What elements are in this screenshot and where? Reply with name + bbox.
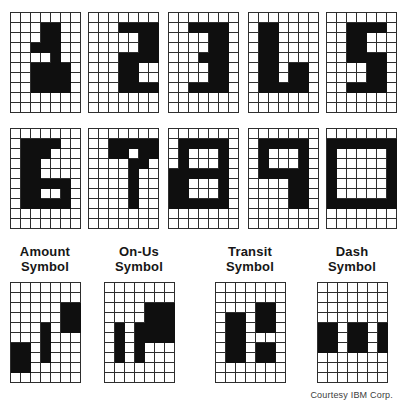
filled-cell — [259, 169, 269, 179]
filled-cell — [299, 149, 309, 159]
empty-cell — [115, 313, 125, 323]
empty-cell — [246, 293, 256, 303]
empty-cell — [109, 23, 119, 33]
filled-cell — [149, 43, 159, 53]
empty-cell — [61, 373, 71, 383]
empty-cell — [236, 363, 246, 373]
empty-cell — [71, 219, 81, 229]
empty-cell — [119, 199, 129, 209]
empty-cell — [309, 33, 319, 43]
empty-cell — [269, 219, 279, 229]
filled-cell — [199, 139, 209, 149]
filled-cell — [11, 343, 21, 353]
filled-cell — [119, 63, 129, 73]
empty-cell — [135, 283, 145, 293]
empty-cell — [169, 149, 179, 159]
filled-cell — [179, 199, 189, 209]
empty-cell — [189, 129, 199, 139]
filled-cell — [179, 189, 189, 199]
empty-cell — [279, 219, 289, 229]
empty-cell — [129, 219, 139, 229]
empty-cell — [139, 13, 149, 23]
filled-cell — [209, 63, 219, 73]
empty-cell — [378, 293, 388, 303]
filled-cell — [289, 179, 299, 189]
filled-cell — [318, 333, 328, 343]
empty-cell — [89, 139, 99, 149]
empty-cell — [216, 353, 226, 363]
empty-cell — [377, 93, 387, 103]
empty-cell — [367, 159, 377, 169]
empty-cell — [337, 169, 347, 179]
empty-cell — [41, 293, 51, 303]
empty-cell — [31, 323, 41, 333]
empty-cell — [348, 313, 358, 323]
filled-cell — [41, 23, 51, 33]
empty-cell — [387, 209, 397, 219]
filled-cell — [209, 83, 219, 93]
filled-cell — [347, 199, 357, 209]
empty-cell — [51, 189, 61, 199]
empty-cell — [61, 149, 71, 159]
empty-cell — [51, 333, 61, 343]
empty-cell — [367, 93, 377, 103]
filled-cell — [149, 139, 159, 149]
empty-cell — [99, 139, 109, 149]
filled-cell — [21, 149, 31, 159]
empty-cell — [119, 159, 129, 169]
empty-cell — [149, 209, 159, 219]
empty-cell — [367, 149, 377, 159]
empty-cell — [51, 93, 61, 103]
empty-cell — [169, 159, 179, 169]
empty-cell — [99, 73, 109, 83]
empty-cell — [327, 43, 337, 53]
empty-cell — [216, 293, 226, 303]
filled-cell — [109, 149, 119, 159]
empty-cell — [61, 53, 71, 63]
empty-cell — [99, 33, 109, 43]
empty-cell — [256, 293, 266, 303]
empty-cell — [71, 63, 81, 73]
empty-cell — [229, 33, 239, 43]
empty-cell — [236, 283, 246, 293]
empty-cell — [11, 159, 21, 169]
empty-cell — [279, 93, 289, 103]
empty-cell — [358, 363, 368, 373]
empty-cell — [11, 209, 21, 219]
empty-cell — [279, 179, 289, 189]
empty-cell — [226, 283, 236, 293]
digit-0-grid — [326, 128, 397, 229]
empty-cell — [309, 149, 319, 159]
empty-cell — [145, 363, 155, 373]
empty-cell — [109, 169, 119, 179]
empty-cell — [199, 149, 209, 159]
filled-cell — [165, 323, 175, 333]
empty-cell — [269, 13, 279, 23]
filled-cell — [377, 63, 387, 73]
empty-cell — [209, 219, 219, 229]
filled-cell — [139, 159, 149, 169]
filled-cell — [145, 303, 155, 313]
empty-cell — [21, 283, 31, 293]
empty-cell — [309, 83, 319, 93]
empty-cell — [249, 199, 259, 209]
empty-cell — [179, 13, 189, 23]
empty-cell — [61, 103, 71, 113]
filled-cell — [51, 33, 61, 43]
empty-cell — [61, 33, 71, 43]
empty-cell — [71, 169, 81, 179]
empty-cell — [249, 63, 259, 73]
empty-cell — [358, 353, 368, 363]
filled-cell — [169, 199, 179, 209]
empty-cell — [357, 209, 367, 219]
empty-cell — [71, 199, 81, 209]
empty-cell — [149, 219, 159, 229]
empty-cell — [377, 43, 387, 53]
empty-cell — [249, 83, 259, 93]
empty-cell — [61, 333, 71, 343]
empty-cell — [249, 43, 259, 53]
filled-cell — [347, 139, 357, 149]
empty-cell — [279, 33, 289, 43]
empty-cell — [89, 53, 99, 63]
filled-cell — [348, 343, 358, 353]
